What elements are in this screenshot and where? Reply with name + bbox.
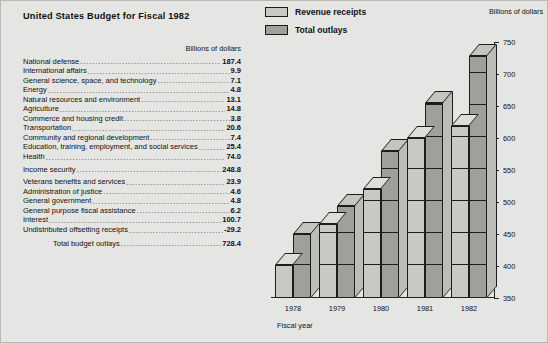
- legend-swatch-icon: [265, 25, 288, 35]
- budget-line-label: Income security: [23, 165, 77, 174]
- legend-item[interactable]: Revenue receipts: [265, 5, 366, 19]
- y-axis-tick-label: 450: [503, 230, 515, 239]
- leader-dots: ........................................…: [157, 77, 229, 85]
- legend-label: Total outlays: [295, 25, 347, 35]
- budget-line-value: 3.8: [231, 114, 241, 123]
- leader-dots: ........................................…: [92, 198, 229, 206]
- leader-dots: ........................................…: [126, 179, 225, 187]
- leader-dots: ........................................…: [129, 227, 223, 235]
- leader-dots: ........................................…: [103, 188, 229, 196]
- budget-line-label: Administration of justice: [23, 187, 103, 196]
- bar-segment-rule: [320, 232, 336, 233]
- budget-row: General government......................…: [23, 196, 241, 206]
- budget-line-value: -29.2: [224, 225, 241, 234]
- y-axis-tick-label: 650: [503, 102, 515, 111]
- x-axis-tick-label: 1980: [373, 304, 389, 313]
- bar-segment-rule: [408, 232, 424, 233]
- x-axis-tick-label: 1979: [329, 304, 345, 313]
- y-axis-tick-label: 600: [503, 134, 515, 143]
- budget-line-label: General government: [23, 196, 92, 205]
- x-axis-title: Fiscal year: [277, 321, 313, 330]
- bar-segment-rule: [470, 232, 486, 233]
- bar-1980-outlays: [381, 151, 399, 298]
- budget-row: Education, training, employment, and soc…: [23, 142, 241, 152]
- leader-dots: ........................................…: [150, 134, 229, 142]
- budget-row: National defense........................…: [23, 56, 241, 66]
- y-axis-tick: [494, 298, 499, 299]
- budget-row: Commerce and housing credit.............…: [23, 113, 241, 123]
- leader-dots: ........................................…: [72, 125, 225, 133]
- chart-panel: Revenue receiptsTotal outlays Billions o…: [263, 1, 547, 342]
- budget-line-value: 187.4: [222, 57, 241, 66]
- budget-row: Health..................................…: [23, 151, 241, 161]
- budget-row: Community and regional development......…: [23, 132, 241, 142]
- y-axis-tick-label: 550: [503, 166, 515, 175]
- y-axis-tick-label: 400: [503, 262, 515, 271]
- bar-segment-rule: [408, 200, 424, 201]
- bar-segment-rule: [470, 200, 486, 201]
- bar-segment-rule: [364, 200, 380, 201]
- chart-units-label: Billions of dollars: [489, 7, 543, 16]
- bar-1978-outlays: [293, 234, 311, 298]
- budget-row: Transportation..........................…: [23, 123, 241, 133]
- bar-front-face: [381, 151, 399, 298]
- budget-line-label: International affairs: [23, 66, 88, 75]
- budget-row: Agriculture.............................…: [23, 104, 241, 114]
- leader-dots: ........................................…: [199, 144, 226, 152]
- leader-dots: ........................................…: [77, 166, 222, 174]
- bar-segment-rule: [452, 200, 468, 201]
- budget-line-label: Health: [23, 152, 46, 161]
- bar-segment-rule: [320, 264, 336, 265]
- bar-1978-revenue: [275, 265, 293, 298]
- budget-line-value: 7.1: [231, 76, 241, 85]
- budget-line-value: 4.8: [231, 85, 241, 94]
- budget-line-label: General science, space, and technology: [23, 76, 157, 85]
- x-axis-tick-label: 1978: [285, 304, 301, 313]
- budget-line-value: 23.9: [226, 177, 241, 186]
- bar-segment-rule: [276, 264, 292, 265]
- budget-row: Energy..................................…: [23, 85, 241, 95]
- bar-segment-rule: [470, 72, 486, 73]
- bar-segment-rule: [382, 200, 398, 201]
- legend-item[interactable]: Total outlays: [265, 23, 366, 37]
- x-axis-tick-label: 1981: [417, 304, 433, 313]
- bar-segment-rule: [426, 168, 442, 169]
- leader-dots: ........................................…: [121, 240, 222, 248]
- budget-line-label: General purpose fiscal assistance: [23, 206, 137, 215]
- bar-front-face: [319, 224, 337, 298]
- budget-line-label: Energy: [23, 85, 48, 94]
- budget-line-value: 14.8: [226, 104, 241, 113]
- bar-chart-plot: 3504004505005506006507007501978197919801…: [263, 39, 547, 305]
- bar-front-face: [407, 138, 425, 298]
- budget-line-value: 74.0: [226, 152, 241, 161]
- bar-front-face: [469, 56, 487, 298]
- budget-line-label: Interest: [23, 215, 49, 224]
- budget-row: Veterans benefits and services..........…: [23, 177, 241, 187]
- budget-line-label: Undistributed offsetting receipts: [23, 225, 129, 234]
- bar-segment-rule: [382, 232, 398, 233]
- budget-line-label: Veterans benefits and services: [23, 177, 126, 186]
- y-axis-tick-label: 350: [503, 294, 515, 303]
- bar-1979-revenue: [319, 224, 337, 298]
- budget-line-label: Agriculture: [23, 104, 60, 113]
- budget-row: Income security.........................…: [23, 164, 241, 174]
- leader-dots: ........................................…: [49, 217, 221, 225]
- bar-segment-rule: [426, 232, 442, 233]
- budget-line-value: 7.4: [231, 133, 241, 142]
- bar-front-face: [275, 265, 293, 298]
- budget-row: Administration of justice...............…: [23, 186, 241, 196]
- bar-segment-rule: [470, 264, 486, 265]
- legend-swatch-icon: [265, 7, 288, 17]
- bar-1982-outlays: [469, 56, 487, 298]
- bar-1980-revenue: [363, 189, 381, 298]
- budget-row: General purpose fiscal assistance.......…: [23, 205, 241, 215]
- leader-dots: ........................................…: [137, 207, 230, 215]
- bar-segment-rule: [426, 136, 442, 137]
- leader-dots: ........................................…: [46, 154, 226, 162]
- budget-line-value: 13.1: [226, 95, 241, 104]
- y-axis-tick-label: 500: [503, 198, 515, 207]
- bar-segment-rule: [408, 168, 424, 169]
- budget-row: Interest................................…: [23, 215, 241, 225]
- budget-line-value: 20.6: [226, 123, 241, 132]
- budget-line-value: 9.9: [231, 66, 241, 75]
